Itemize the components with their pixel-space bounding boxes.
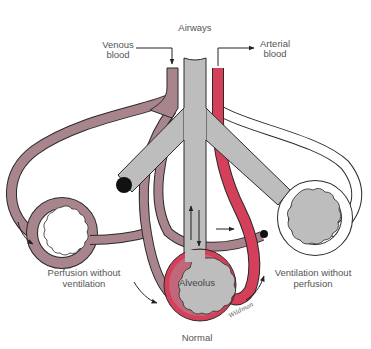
label-ventilation-1: Ventilation without [275,267,352,278]
venous-trunk [150,68,178,118]
venous-pointer [136,48,172,64]
capillary-blockage [260,230,268,238]
arterial-pointer [218,48,254,66]
label-perfusion-1: Perfusion without [48,267,121,278]
left-capillary-link [90,232,150,240]
label-airways: Airways [178,22,212,33]
label-perfusion-2: ventilation [63,278,106,289]
label-arterial-2: blood [263,48,286,59]
flow-arrow-normal-in [134,282,157,303]
vq-diagram: Airways Venous blood Arterial blood Perf… [0,0,371,349]
left-alveolus-capillary [32,203,92,263]
label-venous-2: blood [106,49,129,60]
diagram-svg: Airways Venous blood Arterial blood Perf… [0,0,371,349]
label-normal: Normal [182,332,213,343]
airway-blockage [116,177,132,193]
label-alveolus: Alveolus [179,277,215,288]
label-ventilation-2: perfusion [293,278,332,289]
